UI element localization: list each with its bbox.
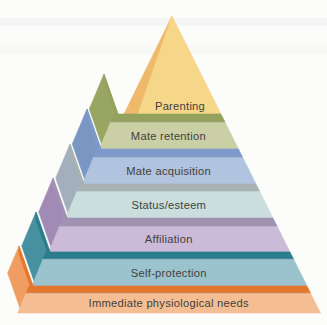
immediate-physiological-needs-top-band [26,286,310,293]
scan-streak [0,18,327,26]
mate-retention-label: Mate retention [131,130,206,142]
mate-acquisition-top-band [94,149,243,157]
mate-acquisition-label: Mate acquisition [126,165,211,177]
immediate-physiological-needs-label: Immediate physiological needs [89,297,249,309]
parenting-label: Parenting [155,100,205,112]
mate-retention-top-band [111,114,225,122]
affiliation-top-band [60,218,277,226]
status-esteem-top-band [77,184,259,191]
affiliation-label: Affiliation [145,233,193,245]
status-esteem-label: Status/esteem [131,199,206,211]
self-protection-label: Self-protection [131,267,207,279]
self-protection-top-band [43,252,293,259]
pyramid-diagram: ParentingMate retentionMate acquisitionS… [0,0,327,325]
figure-canvas: ParentingMate retentionMate acquisitionS… [0,0,327,325]
